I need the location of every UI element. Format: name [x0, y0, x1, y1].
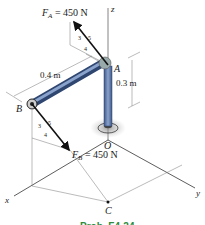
elbow-A	[99, 57, 111, 69]
point-O-label: O	[104, 140, 111, 151]
slope-a-hyp: 5	[88, 35, 91, 41]
y-axis	[108, 140, 195, 188]
figure-caption: Prob. F4-24	[80, 221, 135, 225]
force-A-arrow	[74, 22, 108, 65]
z-axis-label: z	[110, 4, 115, 14]
x-axis-label: x	[4, 195, 9, 205]
force-a-label: FA = 450 N	[41, 7, 88, 20]
dim-height: 0.3 m	[116, 78, 137, 88]
y-axis-label: y	[195, 188, 200, 198]
point-A-label: A	[113, 63, 121, 74]
slope-b-hyp: 5	[48, 120, 51, 126]
point-C-label: C	[105, 205, 112, 216]
slope-a-run: 4	[84, 46, 87, 52]
slope-a-rise: 3	[78, 35, 81, 41]
point-B-label: B	[16, 103, 22, 114]
statics-diagram: FA = 450 N FB = 450 N 3 5 4 3 5 4 0.4 m …	[0, 0, 205, 225]
slope-b-rise: 3	[38, 123, 41, 129]
slope-b-run: 4	[44, 132, 47, 138]
construction-lines	[6, 22, 182, 202]
pipe-OA	[104, 66, 112, 126]
dim-ab: 0.4 m	[40, 70, 61, 80]
